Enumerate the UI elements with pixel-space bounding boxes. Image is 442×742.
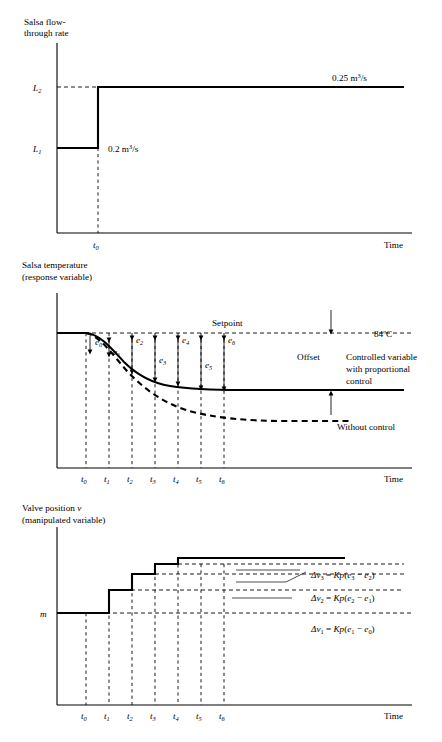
equation-delta-v1: Δv1 = Kp(e1 − e0) <box>310 624 375 635</box>
error-label-e1: e1 <box>113 347 120 358</box>
valve-xtick-t3: t3 <box>150 711 156 722</box>
flow-xtick-t0: t0 <box>93 240 100 251</box>
flow-annotation-final: 0.25 m3/s <box>332 72 367 83</box>
setpoint-label: Setpoint <box>212 318 243 328</box>
figure-text-layer: Salsa flow- through rate L2 L1 t0 0.2 m3… <box>0 0 442 742</box>
setpoint-value: 84ºC <box>374 329 392 339</box>
equation-delta-v3: Δv3 = Kp(e3 − e2) <box>310 570 375 581</box>
temp-xtick-t4: t4 <box>173 474 180 485</box>
error-label-e4: e4 <box>182 335 190 346</box>
controlled-label-line1: Controlled variable <box>346 352 417 362</box>
temp-xtick-t5: t5 <box>196 474 202 485</box>
temp-axis-label-line2: (response variable) <box>22 272 92 282</box>
temp-xtick-t2: t2 <box>127 474 134 485</box>
valve-xtick-t1: t1 <box>104 711 110 722</box>
valve-xtick-t0: t0 <box>81 711 88 722</box>
error-label-e0: e0 <box>95 337 103 348</box>
flow-axis-label-line2: through rate <box>24 28 69 38</box>
flow-ytick-l2: L2 <box>32 83 42 94</box>
controlled-label-line2: with proportional <box>346 364 410 374</box>
valve-axis-label-line1: Valve position v <box>22 503 82 513</box>
flow-annotation-initial: 0.2 m3/s <box>108 143 139 154</box>
temp-xtick-t0: t0 <box>81 474 88 485</box>
valve-xtick-t6: t6 <box>219 711 226 722</box>
flow-ytick-l1: L1 <box>32 144 41 155</box>
error-label-e2: e2 <box>136 335 144 346</box>
valve-ytick-m: m <box>40 609 47 619</box>
controlled-label-line3: control <box>346 376 372 386</box>
valve-xaxis-label: Time <box>384 711 403 721</box>
equation-delta-v2: Δv2 = Kp(e2 − e1) <box>310 593 375 604</box>
flow-axis-label-line1: Salsa flow- <box>24 17 66 27</box>
valve-axis-label-line2: (manipulated variable) <box>22 515 105 525</box>
temp-xtick-t3: t3 <box>150 474 156 485</box>
error-label-e3: e3 <box>159 355 166 366</box>
valve-xtick-t2: t2 <box>127 711 134 722</box>
offset-label: Offset <box>297 352 320 362</box>
flow-xaxis-label: Time <box>384 240 403 250</box>
error-label-e6: e6 <box>228 335 236 346</box>
temp-xtick-t1: t1 <box>104 474 110 485</box>
error-label-e5: e5 <box>205 360 212 371</box>
valve-xtick-t4: t4 <box>173 711 180 722</box>
temp-axis-label-line1: Salsa temperature <box>22 260 88 270</box>
valve-xtick-t5: t5 <box>196 711 202 722</box>
temp-xaxis-label: Time <box>384 474 403 484</box>
temp-xtick-t6: t6 <box>219 474 226 485</box>
without-control-label: Without control <box>337 422 396 432</box>
